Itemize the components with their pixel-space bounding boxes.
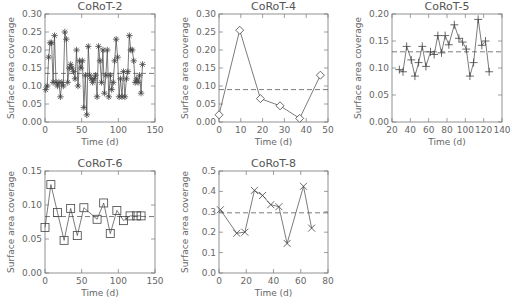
y-tick-label: 0.20: [22, 45, 42, 55]
data-series: [220, 186, 311, 243]
x-tick-label: 100: [110, 276, 127, 286]
data-point-marker: [462, 45, 470, 53]
data-point-marker: [276, 102, 284, 110]
data-series: [219, 30, 320, 118]
data-point-marker: [256, 95, 264, 103]
x-tick-label: 100: [457, 125, 474, 135]
data-point-marker: [415, 59, 423, 67]
data-point-marker: [217, 206, 224, 213]
y-tick-label: 0.10: [369, 63, 389, 73]
x-tick-label: 150: [146, 125, 163, 135]
y-axis-label: Surface area coverage: [6, 171, 16, 273]
data-point-marker: [84, 112, 90, 118]
panel-corot-5: CoRoT-5204060801001201400.000.050.100.15…: [353, 0, 511, 147]
data-point-marker: [308, 225, 315, 232]
y-tick-label: 0.15: [22, 166, 42, 176]
x-tick-label: 50: [322, 125, 334, 135]
data-point-marker: [275, 203, 282, 210]
x-axis-label: Time (d): [254, 137, 293, 147]
data-point-marker: [236, 26, 244, 34]
x-tick-label: 150: [146, 276, 163, 286]
x-tick-label: 0: [42, 125, 48, 135]
data-point-marker: [485, 68, 493, 76]
x-tick-label: 40: [405, 125, 417, 135]
y-tick-label: 0.15: [196, 63, 216, 73]
data-point-marker: [267, 201, 274, 208]
data-point-marker: [60, 83, 66, 89]
chart-title: CoRoT-8: [251, 157, 296, 170]
y-tick-label: 0.1: [202, 248, 216, 258]
y-tick-label: 0.30: [22, 9, 42, 19]
data-point-marker: [75, 83, 81, 89]
x-tick-label: 60: [295, 276, 307, 286]
data-point-marker: [51, 32, 57, 38]
data-point-marker: [136, 72, 142, 78]
y-tick-label: 0.00: [369, 117, 389, 127]
chart-title: CoRoT-4: [251, 0, 296, 13]
data-point-marker: [48, 40, 54, 46]
panel-corot-6: CoRoT-60501001500.000.050.100.15Time (d)…: [6, 157, 164, 298]
y-axis-label: Surface area coverage: [180, 171, 190, 273]
data-point-marker: [411, 72, 419, 80]
y-tick-label: 0.10: [196, 81, 216, 91]
y-axis-label: Surface area coverage: [6, 17, 16, 119]
data-point-marker: [296, 114, 304, 122]
data-point-marker: [95, 43, 101, 49]
y-tick-label: 0.20: [196, 45, 216, 55]
data-series: [45, 185, 141, 241]
x-axis-label: Time (d): [427, 137, 466, 147]
y-tick-label: 0.00: [22, 268, 42, 278]
data-point-marker: [450, 21, 458, 29]
plot-frame: [45, 171, 155, 273]
y-tick-label: 0.0: [202, 268, 217, 278]
y-tick-label: 0.25: [22, 27, 42, 37]
data-point-marker: [434, 32, 442, 40]
chart-title: CoRoT-2: [78, 0, 123, 13]
data-point-marker: [438, 49, 446, 57]
y-tick-label: 0.00: [22, 117, 42, 127]
x-tick-label: 10: [235, 125, 247, 135]
x-tick-label: 50: [76, 276, 88, 286]
data-point-marker: [107, 72, 113, 78]
y-tick-label: 0.05: [196, 99, 216, 109]
data-point-marker: [73, 47, 79, 53]
data-point-marker: [284, 240, 291, 247]
x-tick-label: 80: [322, 276, 334, 286]
x-tick-label: 20: [257, 125, 269, 135]
data-point-marker: [470, 59, 478, 67]
data-point-marker: [104, 47, 110, 53]
panel-corot-4: CoRoT-4010203040500.000.050.100.150.200.…: [180, 0, 334, 147]
data-point-marker: [138, 90, 144, 96]
y-tick-label: 0.25: [196, 27, 216, 37]
x-tick-label: 20: [241, 276, 253, 286]
panel-corot-2: CoRoT-20501001500.000.050.100.150.200.25…: [6, 0, 164, 147]
data-point-marker: [85, 43, 91, 49]
data-point-marker: [106, 94, 112, 100]
data-point-marker: [65, 79, 71, 85]
data-point-marker: [407, 56, 415, 64]
y-tick-label: 0.15: [369, 36, 389, 46]
data-point-marker: [131, 58, 137, 64]
y-tick-label: 0.15: [22, 63, 42, 73]
data-point-marker: [94, 94, 100, 100]
x-tick-label: 100: [110, 125, 127, 135]
y-tick-label: 0.00: [196, 117, 216, 127]
data-point-marker: [251, 187, 258, 194]
y-tick-label: 0.2: [202, 227, 216, 237]
y-tick-label: 0.05: [22, 234, 42, 244]
data-point-marker: [139, 61, 145, 67]
data-point-marker: [259, 192, 266, 199]
y-tick-label: 0.3: [202, 207, 216, 217]
x-tick-label: 40: [268, 276, 280, 286]
data-point-marker: [403, 42, 411, 50]
x-tick-label: 30: [279, 125, 291, 135]
data-point-marker: [466, 72, 474, 80]
data-point-marker: [111, 58, 117, 64]
chart-title: CoRoT-5: [425, 0, 470, 13]
x-tick-label: 40: [300, 125, 312, 135]
y-tick-label: 0.4: [202, 186, 217, 196]
data-point-marker: [445, 41, 453, 49]
data-point-marker: [62, 29, 68, 35]
data-point-marker: [300, 183, 307, 190]
data-point-marker: [422, 62, 430, 70]
